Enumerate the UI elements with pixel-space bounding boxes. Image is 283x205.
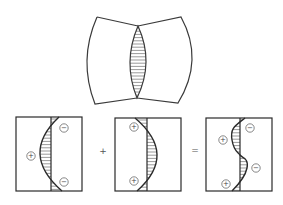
plus-sign-marker: + (130, 123, 138, 132)
stress-panel-1: +−− (16, 117, 82, 191)
sign-label: − (247, 124, 253, 132)
sign-label: − (61, 124, 67, 132)
sign-label: + (28, 152, 34, 160)
stress-panel-2: ++ (115, 118, 181, 191)
plus-operator: + (99, 146, 107, 156)
minus-sign-marker: − (252, 164, 260, 173)
sign-label: − (253, 164, 259, 172)
sign-label: + (220, 136, 226, 144)
diagram-canvas: +−− + ++ = −+−+ (0, 0, 283, 205)
stress-panel-3: −+−+ (206, 118, 272, 191)
sign-label: + (223, 180, 229, 188)
panel-1-signs: +−− (27, 124, 68, 187)
plus-sign-marker: + (219, 136, 227, 145)
panel-2-signs: ++ (130, 123, 138, 186)
minus-sign-marker: − (60, 178, 68, 187)
plus-sign-marker: + (222, 180, 230, 189)
minus-sign-marker: − (246, 124, 254, 133)
plus-sign-marker: + (130, 177, 138, 186)
weld-lens-outline (130, 26, 146, 98)
weld-hatch (128, 28, 148, 95)
panel-1-hatch (16, 119, 82, 189)
sign-label: − (61, 178, 67, 186)
plus-sign-marker: + (27, 152, 35, 161)
panel-3-hatch (206, 120, 272, 190)
sign-label: + (131, 177, 137, 185)
equals-operator: = (191, 145, 199, 155)
minus-sign-marker: − (60, 124, 68, 133)
welded-plates-figure (87, 17, 192, 104)
sign-label: + (131, 123, 137, 131)
